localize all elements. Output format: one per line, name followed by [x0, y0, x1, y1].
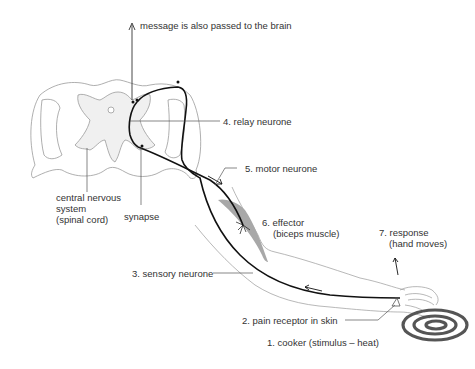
- dorsal-root-dot: [177, 81, 180, 84]
- cooker-coil-icon: [403, 310, 467, 340]
- label-response-1: 7. response: [379, 227, 429, 238]
- label-effector-2: (biceps muscle): [273, 228, 340, 239]
- label-stimulus: 1. cooker (stimulus – heat): [267, 337, 379, 348]
- receptor-leader: [345, 305, 395, 320]
- label-response-2: (hand moves): [389, 238, 447, 249]
- label-brain: message is also passed to the brain: [140, 20, 292, 31]
- label-cns-2: system: [56, 203, 86, 214]
- label-synapse: synapse: [124, 211, 159, 222]
- central-canal: [108, 107, 114, 113]
- label-cns-1: central nervous: [56, 192, 121, 203]
- synapse-dot-3: [141, 145, 144, 148]
- motor-leader: [215, 168, 237, 185]
- synapse-dot-1: [132, 101, 135, 104]
- label-sensory-neurone: 3. sensory neurone: [132, 268, 213, 279]
- label-motor-neurone: 5. motor neurone: [245, 163, 317, 174]
- white-matter-left: [41, 99, 62, 158]
- synapse-dot-2: [136, 99, 139, 102]
- sensory-direction-arrow: [305, 285, 322, 291]
- label-pain-receptor: 2. pain receptor in skin: [242, 315, 338, 326]
- reflex-arc-diagram: [0, 0, 475, 369]
- response-direction-arrow: [393, 258, 398, 275]
- label-effector-1: 6. effector: [262, 217, 304, 228]
- label-relay-neurone: 4. relay neurone: [223, 116, 292, 127]
- biceps-muscle: [218, 199, 268, 262]
- pain-receptor: [392, 298, 400, 306]
- label-cns-3: (spinal cord): [56, 214, 108, 225]
